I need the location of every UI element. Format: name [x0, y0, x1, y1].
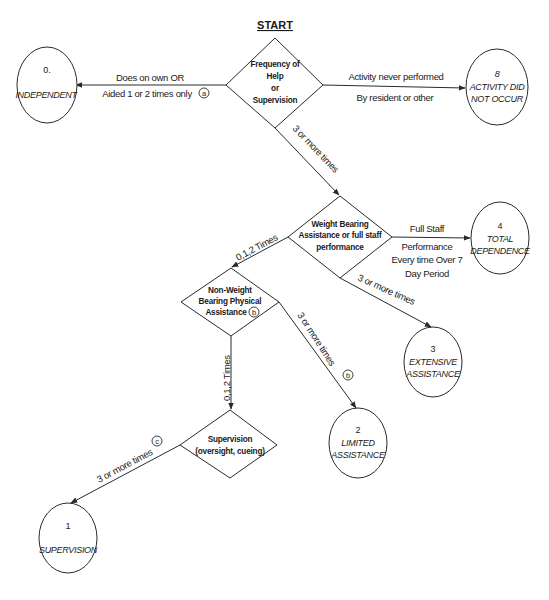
edge-label-line1: Full Staff: [410, 223, 445, 234]
adl-self-performance-flowchart: START Does on own OR Aided 1 or 2 times …: [0, 0, 549, 600]
svg-text:ASSISTANCE: ASSISTANCE: [405, 369, 461, 379]
edge-label-line2: Performance: [401, 241, 452, 252]
edge-to-extensive: 3 or more times: [340, 272, 431, 327]
outcome-independent: 0. INDEPENDENT: [15, 47, 78, 123]
edge-label-line1: Activity never performed: [348, 71, 443, 82]
svg-text:Assistance: Assistance: [205, 308, 247, 317]
svg-text:TOTAL: TOTAL: [487, 234, 514, 244]
edge-to-limited: 3 or more times b: [279, 302, 356, 408]
svg-text:c: c: [155, 437, 159, 446]
edge-label-line4: Day Period: [405, 268, 449, 279]
svg-text:performance: performance: [316, 243, 364, 252]
edge-to-supervision-outcome: 3 or more times c: [71, 436, 180, 503]
outcome-total-dependence: 4 TOTAL DEPENDENCE: [470, 202, 531, 274]
svg-text:Non-Weight: Non-Weight: [208, 286, 252, 295]
edge-label: 3 or more times: [295, 310, 338, 368]
marker-b-icon: b: [343, 370, 353, 380]
svg-text:Bearing Physical: Bearing Physical: [199, 297, 262, 306]
svg-text:NOT OCCUR: NOT OCCUR: [471, 94, 524, 104]
svg-text:INDEPENDENT: INDEPENDENT: [15, 90, 78, 100]
svg-text:ASSISTANCE: ASSISTANCE: [330, 450, 386, 460]
svg-text:EXTENSIVE: EXTENSIVE: [409, 357, 458, 367]
decision-weight-bearing: Weight Bearing Assistance or full staff …: [288, 196, 392, 278]
edge-label-line1: Does on own OR: [116, 72, 185, 83]
svg-text:3: 3: [430, 344, 435, 354]
edge-label: 0,1,2 Times: [234, 231, 280, 262]
svg-text:or: or: [271, 84, 280, 93]
svg-text:LIMITED: LIMITED: [341, 438, 375, 448]
marker-a-icon: a: [199, 88, 209, 98]
edge-to-independent: Does on own OR Aided 1 or 2 times only a: [76, 72, 226, 99]
svg-text:b: b: [252, 308, 256, 317]
start-title: START: [257, 19, 293, 31]
svg-text:4: 4: [497, 221, 502, 231]
decision-non-weight-bearing: Non-Weight Bearing Physical Assistance b: [181, 268, 279, 336]
svg-text:Weight Bearing: Weight Bearing: [311, 220, 368, 229]
edge-label-line2: Aided 1 or 2 times only: [102, 88, 192, 99]
svg-text:1: 1: [65, 521, 70, 531]
svg-text:Supervision: Supervision: [253, 96, 298, 105]
svg-text:Assistance or full staff: Assistance or full staff: [298, 231, 381, 240]
svg-text:0.: 0.: [43, 65, 51, 75]
svg-text:b: b: [346, 371, 350, 380]
edge-to-total-dependence: Full Staff Performance Every time Over 7…: [392, 223, 470, 279]
svg-text:(oversight, cueing): (oversight, cueing): [195, 447, 265, 456]
decision-frequency: Frequency of Help or Supervision: [226, 38, 323, 128]
edge-to-supervision-decision: 0,1,2 Times: [221, 336, 232, 409]
edge-label-line2: By resident or other: [357, 92, 434, 103]
svg-text:Frequency of: Frequency of: [250, 60, 299, 69]
outcome-extensive-assistance: 3 EXTENSIVE ASSISTANCE: [404, 327, 462, 397]
svg-text:2: 2: [355, 425, 360, 435]
svg-text:Help: Help: [267, 72, 284, 81]
edge-label: 0,1,2 Times: [221, 355, 232, 401]
outcome-did-not-occur: 8 ACTIVITY DID NOT OCCUR: [466, 49, 528, 125]
svg-text:Supervision: Supervision: [208, 435, 253, 444]
edge-to-non-weight: 0,1,2 Times: [232, 231, 288, 267]
edge-to-weight-bearing: 3 or more times: [275, 123, 342, 195]
svg-text:SUPERVISION: SUPERVISION: [39, 545, 98, 555]
edge-to-did-not-occur: Activity never performed By resident or …: [323, 71, 465, 103]
outcome-supervision: 1 SUPERVISION: [39, 503, 98, 573]
svg-text:DEPENDENCE: DEPENDENCE: [470, 246, 531, 256]
outcome-limited-assistance: 2 LIMITED ASSISTANCE: [329, 408, 387, 478]
svg-text:8: 8: [495, 69, 500, 79]
svg-text:ACTIVITY DID: ACTIVITY DID: [469, 82, 526, 92]
edge-label: 3 or more times: [291, 123, 342, 175]
edge-label: 3 or more times: [95, 446, 155, 485]
decision-supervision: Supervision (oversight, cueing): [180, 410, 277, 478]
marker-b-icon: b: [249, 307, 259, 317]
marker-c-icon: c: [152, 436, 162, 446]
edge-label-line3: Every time Over 7: [392, 254, 463, 265]
